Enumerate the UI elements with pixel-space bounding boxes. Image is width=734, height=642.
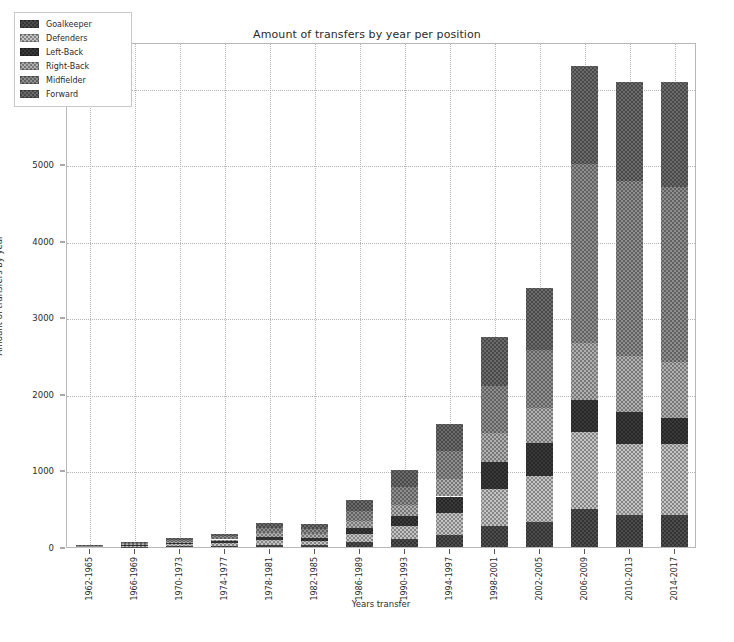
bar-segment[interactable] [526, 288, 554, 349]
bar-stack[interactable] [571, 42, 599, 547]
bar-stack[interactable] [481, 42, 509, 547]
bar-segment[interactable] [481, 386, 509, 433]
bar-segment[interactable] [571, 66, 599, 163]
bar-segment[interactable] [166, 546, 194, 547]
bar-segment[interactable] [526, 350, 554, 408]
bar-segment[interactable] [256, 537, 284, 540]
bar-segment[interactable] [346, 534, 374, 542]
bar-segment[interactable] [481, 337, 509, 386]
legend-item-left-back[interactable]: Left-Back [20, 45, 126, 59]
bar-segment[interactable] [76, 545, 104, 546]
bar-stack[interactable] [301, 42, 329, 547]
bar-stack[interactable] [121, 42, 149, 547]
legend-item-midfielder[interactable]: Midfielder [20, 73, 126, 87]
bar-segment[interactable] [616, 356, 644, 412]
bar-segment[interactable] [571, 343, 599, 400]
bar-segment[interactable] [346, 511, 374, 522]
bar-stack[interactable] [166, 42, 194, 547]
bar-stack[interactable] [211, 42, 239, 547]
bar-segment[interactable] [571, 400, 599, 432]
bar-segment[interactable] [571, 432, 599, 509]
bar-segment[interactable] [346, 542, 374, 547]
bar-segment[interactable] [346, 500, 374, 510]
bar-stack[interactable] [526, 42, 554, 547]
bar-segment[interactable] [661, 362, 689, 419]
bar-segment[interactable] [301, 534, 329, 537]
bar-segment[interactable] [481, 489, 509, 526]
bar-segment[interactable] [571, 509, 599, 547]
x-tick-mark [449, 549, 450, 554]
bar-segment[interactable] [256, 533, 284, 536]
bar-segment[interactable] [436, 535, 464, 547]
bar-segment[interactable] [121, 547, 149, 548]
bar-segment[interactable] [436, 451, 464, 479]
bar-segment[interactable] [211, 546, 239, 547]
bar-segment[interactable] [391, 470, 419, 487]
bar-segment[interactable] [526, 476, 554, 522]
bar-segment[interactable] [121, 543, 149, 544]
bar-segment[interactable] [166, 538, 194, 540]
bar-segment[interactable] [436, 424, 464, 451]
bar-segment[interactable] [616, 412, 644, 444]
bar-stack[interactable] [391, 42, 419, 547]
bar-segment[interactable] [616, 82, 644, 181]
bar-segment[interactable] [661, 444, 689, 514]
bar-segment[interactable] [256, 528, 284, 534]
bar-segment[interactable] [301, 538, 329, 541]
bar-stack[interactable] [436, 42, 464, 547]
bar-stack[interactable] [256, 42, 284, 547]
bar-segment[interactable] [211, 536, 239, 539]
bar-segment[interactable] [166, 542, 194, 543]
bar-segment[interactable] [436, 497, 464, 513]
bar-segment[interactable] [481, 526, 509, 547]
bar-segment[interactable] [301, 545, 329, 547]
bar-segment[interactable] [211, 540, 239, 542]
bar-stack[interactable] [661, 42, 689, 547]
legend-item-defenders[interactable]: Defenders [20, 31, 126, 45]
bar-segment[interactable] [526, 443, 554, 476]
bar-segment[interactable] [121, 545, 149, 546]
bar-segment[interactable] [256, 523, 284, 528]
bar-segment[interactable] [211, 534, 239, 537]
bar-stack[interactable] [616, 42, 644, 547]
bar-segment[interactable] [346, 528, 374, 534]
bar-segment[interactable] [661, 187, 689, 362]
bar-segment[interactable] [256, 545, 284, 547]
bar-segment[interactable] [661, 82, 689, 187]
bar-segment[interactable] [166, 544, 194, 546]
bar-segment[interactable] [526, 522, 554, 547]
bar-segment[interactable] [616, 181, 644, 356]
bar-stack[interactable] [76, 42, 104, 547]
bar-segment[interactable] [661, 418, 689, 444]
bar-segment[interactable] [616, 444, 644, 514]
bar-segment[interactable] [211, 543, 239, 545]
bar-segment[interactable] [211, 541, 239, 543]
legend-item-goalkeeper[interactable]: Goalkeeper [20, 17, 126, 31]
bar-segment[interactable] [481, 433, 509, 462]
bar-segment[interactable] [571, 164, 599, 344]
bar-segment[interactable] [391, 516, 419, 526]
bar-segment[interactable] [121, 546, 149, 547]
bar-stack[interactable] [346, 42, 374, 547]
bar-segment[interactable] [256, 540, 284, 544]
bar-segment[interactable] [391, 505, 419, 516]
bar-segment[interactable] [301, 541, 329, 545]
bar-segment[interactable] [391, 526, 419, 540]
bar-segment[interactable] [391, 539, 419, 547]
bar-segment[interactable] [661, 515, 689, 547]
bar-segment[interactable] [436, 479, 464, 496]
bar-segment[interactable] [301, 524, 329, 529]
bar-segment[interactable] [166, 543, 194, 544]
bar-segment[interactable] [436, 513, 464, 535]
legend-item-right-back[interactable]: Right-Back [20, 59, 126, 73]
bar-segment[interactable] [481, 462, 509, 489]
bar-segment[interactable] [166, 540, 194, 542]
bar-segment[interactable] [391, 487, 419, 505]
bar-segment[interactable] [526, 408, 554, 443]
bar-segment[interactable] [121, 544, 149, 545]
bar-segment[interactable] [121, 542, 149, 543]
legend-item-forward[interactable]: Forward [20, 87, 126, 101]
bar-segment[interactable] [301, 529, 329, 534]
bar-segment[interactable] [616, 515, 644, 547]
bar-segment[interactable] [346, 521, 374, 528]
